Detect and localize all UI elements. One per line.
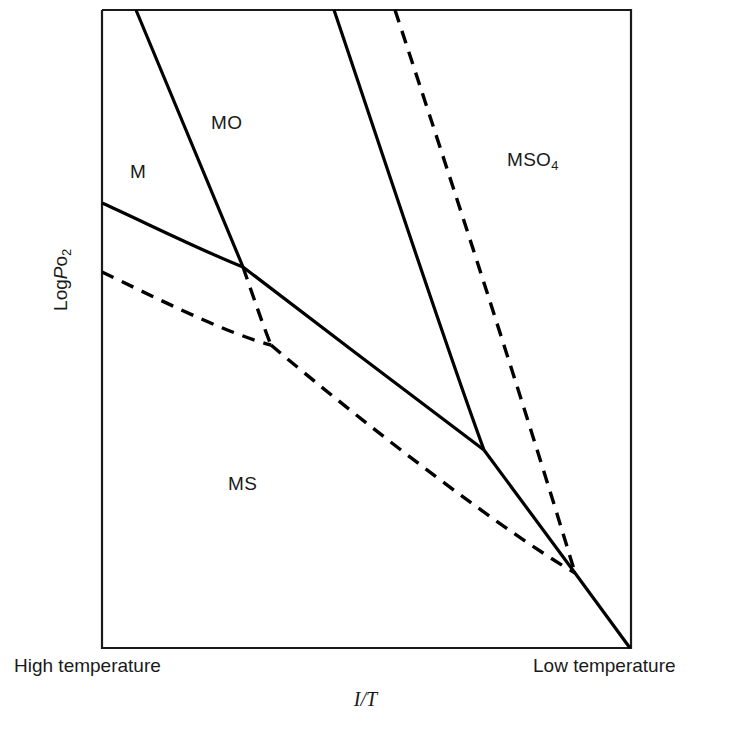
region-label-m: M xyxy=(130,161,146,183)
boundary-ms-mso4-solid xyxy=(484,450,630,648)
y-axis-label: LogPo2 xyxy=(50,210,74,350)
boundary-m-mo xyxy=(136,10,243,267)
dashed-boundary-m-ms xyxy=(102,272,271,345)
region-label-mso4: MSO4 xyxy=(507,149,558,173)
phase-diagram-plot xyxy=(0,0,731,737)
region-label-ms: MS xyxy=(228,473,257,495)
region-label-mso4-main: MSO xyxy=(507,149,551,170)
region-label-mo: MO xyxy=(211,112,242,134)
x-axis-label: I/T xyxy=(0,688,731,711)
y-axis-label-italic-p: P xyxy=(50,266,71,279)
dashed-boundary-ms xyxy=(271,345,575,573)
boundary-mo-mso4 xyxy=(334,10,484,450)
y-axis-label-prefix: Log xyxy=(50,279,71,311)
x-axis-left-annotation: High temperature xyxy=(14,655,161,677)
x-axis-right-annotation: Low temperature xyxy=(533,655,676,677)
phase-diagram-figure: M MO MSO4 MS LogPo2 I/T High temperature… xyxy=(0,0,731,737)
y-axis-label-subscript-2: 2 xyxy=(59,249,74,256)
dashed-boundary-mso4 xyxy=(395,10,575,573)
region-label-mso4-subscript: 4 xyxy=(551,158,558,173)
y-axis-label-o: o xyxy=(50,256,71,267)
